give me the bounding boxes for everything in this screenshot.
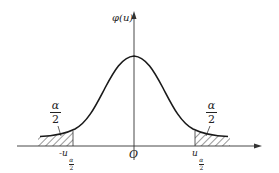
right-two: 2 (208, 114, 215, 125)
right-alpha: α (208, 100, 215, 111)
left-two: 2 (52, 114, 59, 125)
sub-alpha: α (199, 157, 203, 163)
diagram-graphic (0, 0, 279, 173)
y-axis-label: φ(u) (112, 13, 133, 23)
sub-alpha: α (69, 157, 73, 163)
right-critical-prefix: u (192, 148, 198, 158)
sub-two: 2 (69, 165, 73, 171)
origin-label: O (129, 149, 138, 160)
left-alpha: α (52, 100, 59, 111)
right-tail-area-label: α 2 (206, 100, 217, 125)
left-tail-area-label: α 2 (50, 100, 61, 125)
left-critical-value-label: -uα2 (59, 149, 74, 171)
left-critical-subscript: α2 (69, 157, 74, 171)
y-axis (132, 11, 137, 160)
sub-two: 2 (199, 165, 203, 171)
right-critical-value-label: uα2 (192, 149, 204, 171)
left-critical-prefix: -u (59, 148, 68, 158)
x-axis-arrow-icon (254, 144, 262, 149)
normal-distribution-diagram: φ(u) O α 2 α 2 -uα2 uα2 (0, 0, 279, 173)
right-critical-subscript: α2 (199, 157, 204, 171)
